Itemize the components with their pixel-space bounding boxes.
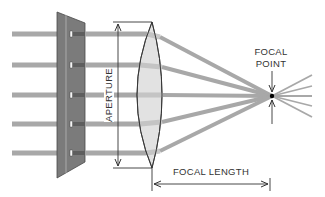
focal-point-dot	[270, 94, 274, 98]
lens-diagram: FOCAL POINT APERTURE FOCAL LENGTH	[0, 0, 325, 197]
ray-4-converging	[162, 96, 272, 122]
focal-point-label-line1: FOCAL	[254, 46, 287, 57]
slot-4	[70, 121, 73, 127]
slot-1	[70, 31, 73, 37]
ray-3-converging	[163, 95, 272, 96]
incoming-rays	[12, 34, 58, 153]
aperture-label: APERTURE	[103, 68, 114, 122]
diverging-rays	[272, 75, 312, 117]
slotted-plate	[57, 12, 85, 178]
convex-lens	[137, 22, 163, 168]
ray-5-converging	[160, 96, 272, 151]
focal-length-label: FOCAL LENGTH	[173, 166, 249, 177]
slot-3	[70, 92, 73, 98]
slot-5	[70, 150, 73, 156]
focal-point-label-line2: POINT	[256, 58, 287, 69]
ray-2-converging	[162, 67, 272, 96]
slot-2	[70, 62, 73, 68]
